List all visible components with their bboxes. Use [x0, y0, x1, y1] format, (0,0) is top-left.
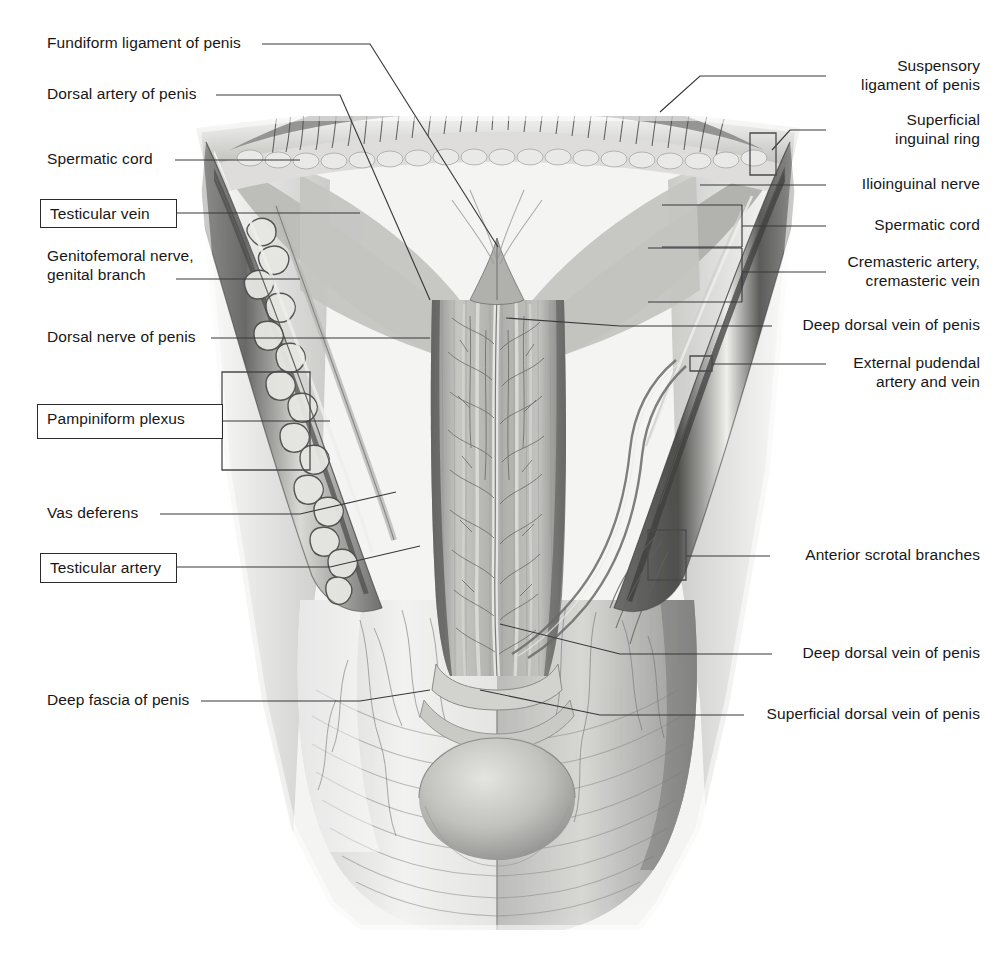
bracket-spermatic-cord-right	[662, 205, 742, 247]
label-spermatic-cord-left: Spermatic cord	[47, 149, 153, 168]
leader-fundiform-ligament-of-penis	[262, 44, 498, 247]
highlight-anterior-scrotal-branches	[648, 530, 686, 580]
illustration-artwork	[0, 0, 994, 968]
label-anterior-scrotal-branches: Anterior scrotal branches	[805, 545, 980, 564]
leader-superficial-inguinal-ring	[772, 130, 826, 150]
bracket-cremasteric-vessels	[648, 248, 742, 302]
label-suspensory-ligament-of-penis: Suspensory ligament of penis	[861, 56, 980, 94]
highlight-external-pudendal-vessels	[690, 356, 712, 371]
label-superficial-dorsal-vein: Superficial dorsal vein of penis	[767, 704, 980, 723]
leader-testicular-artery	[177, 546, 420, 567]
leader-deep-dorsal-vein-upper	[506, 318, 772, 326]
label-fundiform-ligament-of-penis: Fundiform ligament of penis	[47, 33, 241, 52]
label-deep-dorsal-vein-lower: Deep dorsal vein of penis	[803, 643, 980, 662]
label-dorsal-artery-of-penis: Dorsal artery of penis	[47, 84, 197, 103]
leader-lines	[0, 0, 994, 968]
leader-deep-dorsal-vein-lower	[500, 624, 772, 654]
label-genitofemoral-nerve: Genitofemoral nerve, genital branch	[47, 246, 194, 284]
label-vas-deferens: Vas deferens	[47, 503, 138, 522]
leader-superficial-dorsal-vein	[480, 690, 744, 715]
label-deep-fascia-of-penis: Deep fascia of penis	[47, 690, 189, 709]
label-deep-dorsal-vein-upper: Deep dorsal vein of penis	[803, 315, 980, 334]
highlight-pampiniform-plexus	[222, 372, 310, 470]
label-cremasteric-vessels: Cremasteric artery, cremasteric vein	[847, 252, 980, 290]
label-external-pudendal-vessels: External pudendal artery and vein	[853, 353, 980, 391]
label-testicular-vein: Testicular vein	[40, 199, 177, 228]
leader-dorsal-artery-of-penis	[216, 95, 430, 300]
label-superficial-inguinal-ring: Superficial inguinal ring	[895, 110, 980, 148]
anatomy-figure: Fundiform ligament of penis Dorsal arter…	[0, 0, 994, 968]
highlight-superficial-inguinal-ring	[750, 133, 776, 175]
leader-vas-deferens	[160, 492, 396, 514]
label-ilioinguinal-nerve: Ilioinguinal nerve	[862, 174, 980, 193]
label-spermatic-cord-right: Spermatic cord	[874, 215, 980, 234]
label-dorsal-nerve-of-penis: Dorsal nerve of penis	[47, 327, 196, 346]
label-pampiniform-plexus: Pampiniform plexus	[37, 404, 223, 439]
leader-suspensory-ligament-of-penis	[660, 76, 826, 112]
label-testicular-artery: Testicular artery	[40, 553, 177, 583]
leader-deep-fascia-of-penis	[201, 690, 430, 701]
